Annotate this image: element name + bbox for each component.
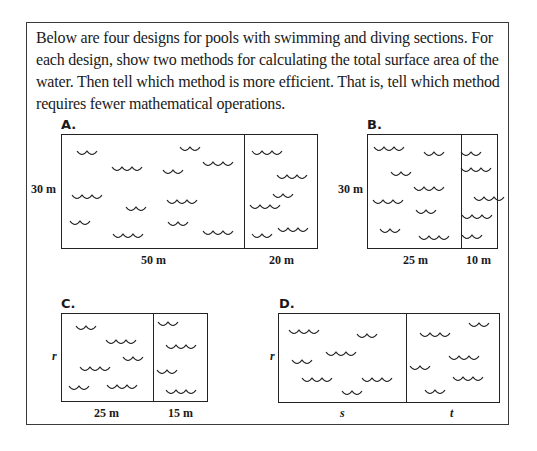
wave-icon: [0, 0, 537, 451]
